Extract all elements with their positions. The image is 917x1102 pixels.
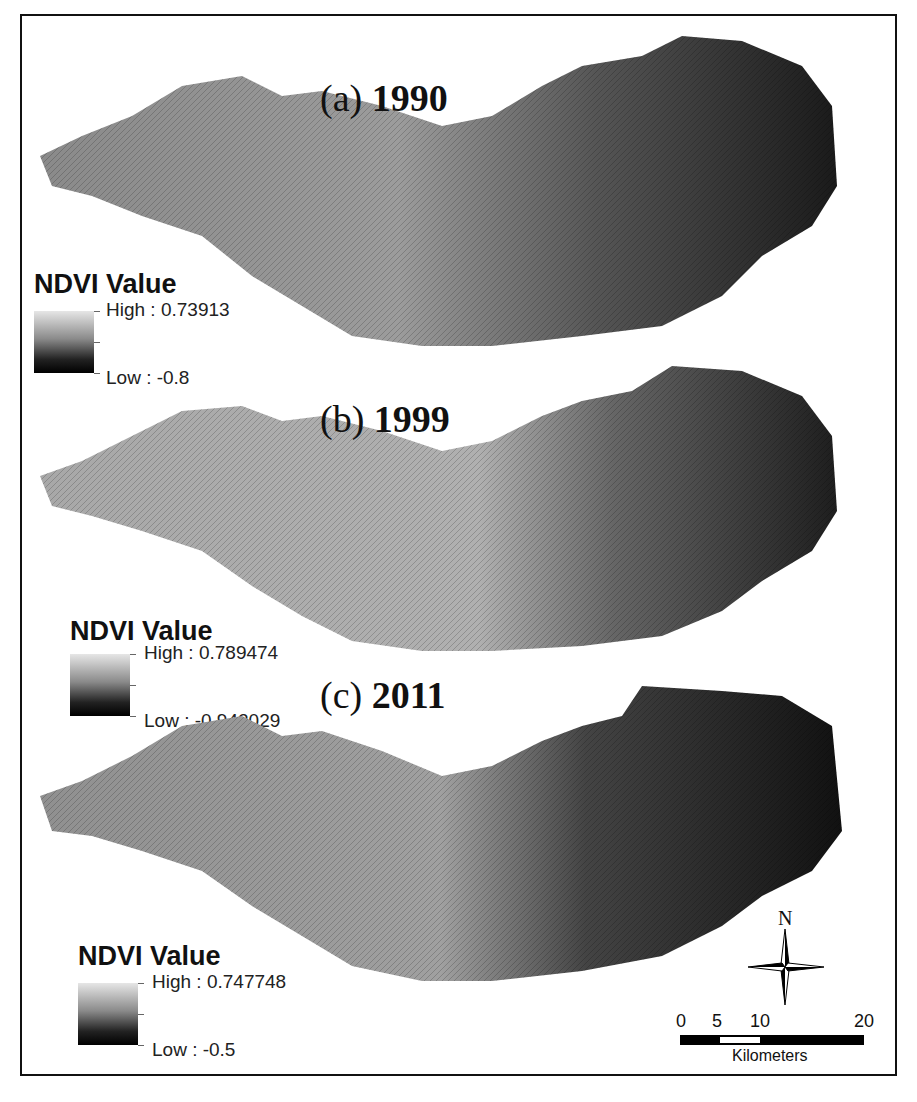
panel-year: 1990 bbox=[372, 77, 448, 119]
legend-high-label: High : 0.747748 bbox=[152, 971, 286, 993]
panel-label: (a) bbox=[320, 77, 362, 119]
ramp-tick bbox=[130, 654, 136, 655]
scale-tick-label: 20 bbox=[854, 1011, 874, 1032]
legend-low-label: Low : -0.5 bbox=[152, 1039, 235, 1061]
ndvi-legend: NDVI Value High : 0.73913 Low : -0.8 bbox=[34, 269, 177, 300]
ramp-tick bbox=[138, 983, 144, 984]
map-frame: (a) 1990 NDVI Value High : 0.73913 Low :… bbox=[20, 14, 897, 1076]
scale-unit-label: Kilometers bbox=[732, 1047, 808, 1065]
panel-year: 1999 bbox=[374, 398, 450, 440]
scale-tick-label: 10 bbox=[750, 1011, 770, 1032]
ramp-tick bbox=[94, 342, 100, 343]
legend-high-label: High : 0.73913 bbox=[106, 299, 230, 321]
ramp-tick bbox=[94, 311, 100, 312]
ndvi-legend: NDVI Value High : 0.747748 Low : -0.5 bbox=[78, 941, 221, 972]
panel-2011: (c) 2011 NDVI Value High : 0.747748 Low … bbox=[22, 681, 899, 1076]
scale-bar-segment bbox=[720, 1037, 760, 1043]
panel-1999: (b) 1999 NDVI Value High : 0.789474 Low … bbox=[22, 361, 899, 691]
panel-1990: (a) 1990 NDVI Value High : 0.73913 Low :… bbox=[22, 16, 899, 366]
scale-tick-label: 0 bbox=[676, 1011, 686, 1032]
panel-label: (b) bbox=[320, 398, 364, 440]
scale-bar-graphic bbox=[680, 1035, 864, 1045]
ramp-tick bbox=[138, 1014, 144, 1015]
panel-title: (a) 1990 bbox=[320, 76, 448, 120]
panel-label: (c) bbox=[320, 674, 362, 716]
compass-star-icon bbox=[740, 907, 830, 1017]
ramp-tick bbox=[138, 1045, 144, 1046]
scale-bar: 0 5 10 20 Kilometers bbox=[670, 1011, 890, 1071]
panel-title: (c) 2011 bbox=[320, 673, 446, 717]
color-ramp bbox=[78, 983, 138, 1045]
legend-title: NDVI Value bbox=[78, 941, 221, 972]
panel-title: (b) 1999 bbox=[320, 397, 450, 441]
legend-title: NDVI Value bbox=[34, 269, 177, 300]
panel-year: 2011 bbox=[372, 674, 446, 716]
legend-high-label: High : 0.789474 bbox=[144, 642, 278, 664]
north-arrow: N bbox=[740, 907, 830, 1017]
scale-tick-label: 5 bbox=[712, 1011, 722, 1032]
ndvi-legend: NDVI Value High : 0.789474 Low : -0.9420… bbox=[70, 616, 213, 647]
